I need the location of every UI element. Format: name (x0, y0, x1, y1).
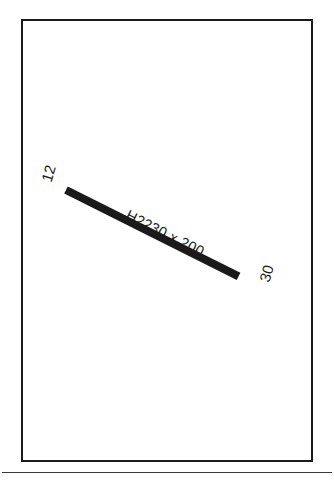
drawing-canvas: 12 30 H2230 x 200 (0, 0, 334, 488)
horizontal-separator-line (2, 472, 332, 473)
